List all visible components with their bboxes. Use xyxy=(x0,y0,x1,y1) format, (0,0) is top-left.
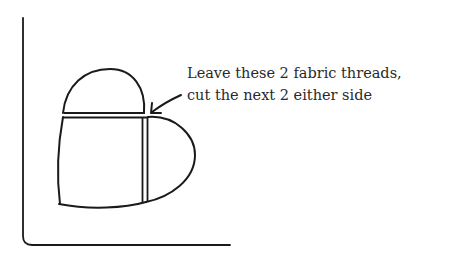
corner-axis-lines xyxy=(23,18,230,245)
heart-left-side xyxy=(58,117,63,204)
arrow-icon xyxy=(151,95,181,113)
heart-bottom-edge xyxy=(59,202,146,208)
annotation-line-2: cut the next 2 either side xyxy=(187,84,402,106)
annotation-line-1: Leave these 2 fabric threads, xyxy=(187,62,402,84)
heart-right-lobe xyxy=(146,117,195,202)
heart-diagram xyxy=(0,0,460,259)
annotation-text: Leave these 2 fabric threads, cut the ne… xyxy=(187,62,402,106)
heart-top-lobe xyxy=(63,69,144,113)
